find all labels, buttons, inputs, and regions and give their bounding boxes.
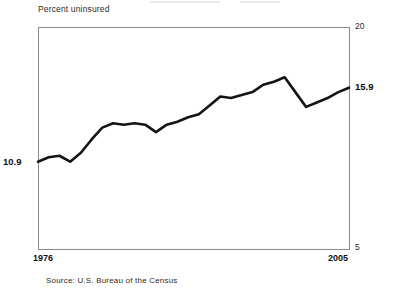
source-note: Source: U.S. Bureau of the Census xyxy=(46,276,178,285)
x-axis-tick-end: 2005 xyxy=(328,253,348,263)
x-axis-tick-start: 1976 xyxy=(33,253,53,263)
chart-figure: Percent uninsured 20 5 10.9 15.9 1976 20… xyxy=(0,0,395,295)
end-value-annotation: 15.9 xyxy=(355,81,374,92)
start-value-annotation: 10.9 xyxy=(3,156,22,167)
y-axis-tick-top: 20 xyxy=(355,21,364,31)
plot-frame xyxy=(39,28,350,250)
plot-area xyxy=(0,0,395,295)
y-axis-tick-bottom: 5 xyxy=(355,242,360,252)
series-line-percent-uninsured xyxy=(38,77,349,161)
